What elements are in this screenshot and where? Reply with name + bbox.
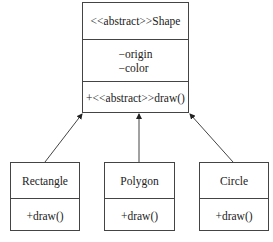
class-shape-name: <<abstract>>Shape (91, 14, 181, 28)
class-polygon-methods-section: +draw() (105, 198, 174, 232)
arrow-circle-to-shape (190, 114, 233, 162)
class-polygon-name: Polygon (120, 174, 158, 188)
class-shape-name-section: <<abstract>>Shape (83, 3, 188, 39)
method-draw: +draw() (215, 209, 252, 223)
class-shape-methods-section: +<<abstract>>draw() (83, 81, 188, 114)
class-circle-name-section: Circle (200, 163, 268, 198)
class-rectangle-name: Rectangle (22, 174, 68, 188)
attribute-color: −color (119, 61, 153, 75)
class-rectangle-name-section: Rectangle (11, 163, 79, 198)
class-shape-attributes-section: −origin −color (83, 39, 188, 82)
method-draw: +draw() (26, 209, 63, 223)
attribute-origin: −origin (119, 47, 153, 61)
method-abstract-draw: +<<abstract>>draw() (86, 91, 185, 105)
class-circle: Circle +draw() (199, 162, 269, 231)
class-rectangle-methods-section: +draw() (11, 198, 79, 232)
class-circle-name: Circle (220, 174, 248, 188)
class-polygon: Polygon +draw() (104, 162, 175, 231)
class-polygon-name-section: Polygon (105, 163, 174, 198)
class-shape: <<abstract>>Shape −origin −color +<<abst… (82, 2, 189, 113)
class-rectangle: Rectangle +draw() (10, 162, 80, 231)
class-circle-methods-section: +draw() (200, 198, 268, 232)
arrow-rectangle-to-shape (45, 114, 82, 162)
method-draw: +draw() (121, 209, 158, 223)
